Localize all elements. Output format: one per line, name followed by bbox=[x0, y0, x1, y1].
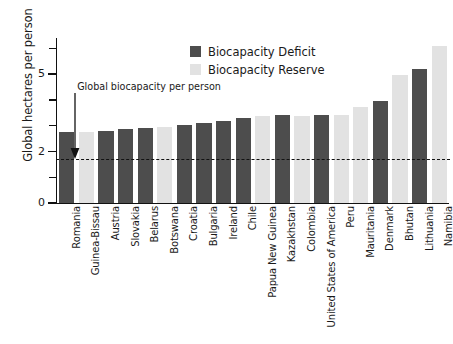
bar bbox=[157, 127, 172, 203]
x-tick-label: Colombia bbox=[306, 206, 317, 252]
global-biocapacity-reference-line bbox=[56, 159, 450, 160]
x-tick-label: United States of America bbox=[326, 206, 337, 327]
bar bbox=[353, 107, 368, 203]
legend-item-deficit: Biocapacity Deficit bbox=[190, 44, 325, 59]
y-tick-0: 0 bbox=[48, 202, 57, 204]
legend-item-reserve: Biocapacity Reserve bbox=[190, 62, 325, 77]
bar bbox=[236, 118, 251, 203]
bar bbox=[412, 69, 427, 203]
x-axis-tick-labels: RomaniaGuinea-BissauAustriaSlovakiaBelar… bbox=[57, 206, 449, 340]
x-tick-label: Lithuania bbox=[424, 206, 435, 251]
bar bbox=[373, 101, 388, 203]
x-tick-label: Bulgaria bbox=[208, 206, 219, 246]
bar bbox=[392, 75, 407, 203]
x-tick-label: Kazakhstan bbox=[286, 206, 297, 262]
bar bbox=[138, 128, 153, 203]
reference-line-annotation-label: Global biocapacity per person bbox=[77, 81, 221, 92]
chart-container: Global hectares per person 025 Global bi… bbox=[0, 0, 453, 344]
x-tick-label: Croatia bbox=[188, 206, 199, 241]
x-tick-label: Namibia bbox=[443, 206, 453, 246]
legend: Biocapacity Deficit Biocapacity Reserve bbox=[190, 44, 325, 80]
x-tick-label: Romania bbox=[71, 206, 82, 249]
bar bbox=[177, 125, 192, 203]
x-tick-label: Peru bbox=[345, 206, 356, 228]
y-tick-3 bbox=[49, 125, 57, 126]
x-tick-label: Mauritania bbox=[365, 206, 376, 258]
legend-label-reserve: Biocapacity Reserve bbox=[208, 63, 325, 77]
bar bbox=[432, 46, 447, 203]
y-tick-5: 5 bbox=[48, 73, 57, 75]
bar bbox=[118, 129, 133, 203]
x-tick-label: Chile bbox=[247, 206, 258, 230]
x-tick-label: Denmark bbox=[384, 206, 395, 251]
legend-label-deficit: Biocapacity Deficit bbox=[208, 45, 316, 59]
bar bbox=[196, 123, 211, 203]
y-tick-label-2: 2 bbox=[38, 144, 45, 157]
annotation-arrow-icon bbox=[67, 93, 83, 163]
bar bbox=[98, 131, 113, 203]
x-tick-label: Austria bbox=[110, 206, 121, 240]
y-tick-label-0: 0 bbox=[38, 196, 45, 209]
y-tick-6 bbox=[49, 48, 57, 49]
x-tick-label: Guinea-Bissau bbox=[90, 206, 101, 275]
y-axis-title: Global hectares per person bbox=[21, 0, 35, 175]
x-tick-label: Papua New Guinea bbox=[267, 206, 278, 298]
x-tick-label: Slovakia bbox=[130, 206, 141, 247]
bar bbox=[216, 121, 231, 204]
y-tick-label-5: 5 bbox=[38, 67, 45, 80]
x-tick-label: Belarus bbox=[149, 206, 160, 243]
legend-swatch-deficit-icon bbox=[190, 46, 201, 57]
x-tick-label: Botswana bbox=[169, 206, 180, 254]
legend-swatch-reserve-icon bbox=[190, 64, 201, 75]
x-tick-label: Bhutan bbox=[404, 206, 415, 241]
y-tick-1 bbox=[49, 177, 57, 178]
x-tick-label: Ireland bbox=[228, 206, 239, 240]
y-tick-4 bbox=[49, 99, 57, 100]
y-tick-2: 2 bbox=[48, 151, 57, 153]
